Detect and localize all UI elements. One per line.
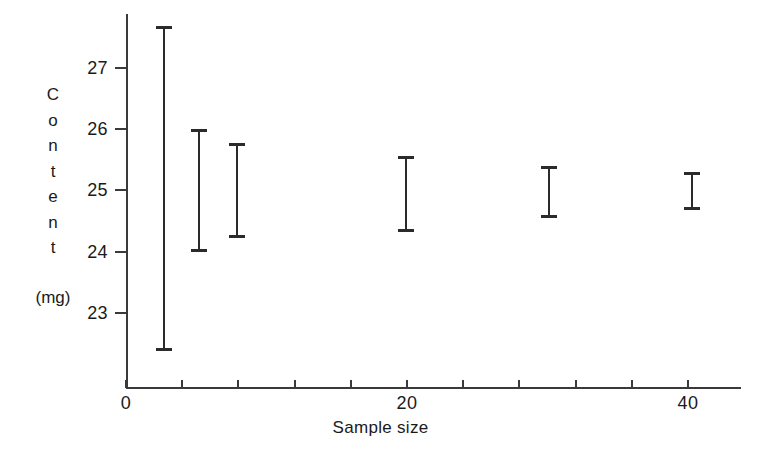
x-axis-tick-mark (575, 380, 577, 388)
y-axis-tick-mark (115, 251, 126, 253)
y-axis-title-letter: C (36, 82, 70, 108)
error-bar-lower-cap (156, 348, 172, 351)
error-bar-stem (691, 172, 693, 210)
x-axis-tick-mark (181, 380, 183, 388)
y-axis-tick-label-wrap: 24 (62, 243, 108, 261)
error-bar-upper-cap (541, 166, 557, 169)
y-axis-tick-label: 26 (64, 120, 108, 138)
y-axis-tick-label-wrap: 25 (62, 181, 108, 199)
y-axis-tick-label: 25 (64, 181, 108, 199)
error-bar-lower-cap (229, 235, 245, 238)
error-bar (398, 156, 414, 232)
y-axis-tick-label-wrap: 23 (62, 304, 108, 322)
x-axis-tick-mark (462, 380, 464, 388)
error-bar-chart: C o n t e n t (mg) 2324252627 02040 Samp… (0, 0, 761, 457)
y-axis-tick-mark (115, 312, 126, 314)
error-bar (191, 129, 207, 251)
x-axis-tick-mark (237, 380, 239, 388)
error-bar-upper-cap (229, 143, 245, 146)
x-axis-line (126, 387, 741, 389)
x-axis-title: Sample size (0, 418, 761, 438)
error-bar-upper-cap (398, 156, 414, 159)
y-axis-tick-mark (115, 189, 126, 191)
error-bar-upper-cap (156, 26, 172, 29)
x-axis-tick-mark (125, 380, 127, 388)
error-bar-stem (405, 156, 407, 232)
error-bar-lower-cap (398, 229, 414, 232)
x-axis-tick-mark (294, 380, 296, 388)
error-bar-stem (548, 166, 550, 218)
x-axis-tick-label: 0 (96, 392, 156, 414)
y-axis-title: C o n t e n t (36, 82, 70, 261)
error-bar-stem (163, 26, 165, 351)
x-axis-tick-label: 40 (658, 392, 718, 414)
error-bar (684, 172, 700, 210)
x-axis-tick-mark (631, 380, 633, 388)
error-bar-stem (198, 129, 200, 251)
y-axis-tick-mark (115, 67, 126, 69)
y-axis-tick-label: 24 (64, 243, 108, 261)
error-bar-upper-cap (191, 129, 207, 132)
x-axis-tick-mark (518, 380, 520, 388)
y-axis-tick-label-wrap: 27 (62, 59, 108, 77)
error-bar (229, 143, 245, 237)
error-bar-stem (236, 143, 238, 237)
error-bar (156, 26, 172, 351)
y-axis-tick-label: 23 (64, 304, 108, 322)
y-axis-line (126, 14, 128, 388)
y-axis-tick-mark (115, 128, 126, 130)
error-bar-upper-cap (684, 172, 700, 175)
x-axis-tick-mark (350, 380, 352, 388)
x-axis-tick-mark (687, 380, 689, 388)
y-axis-tick-label-wrap: 26 (62, 120, 108, 138)
error-bar-lower-cap (541, 215, 557, 218)
y-axis-title-letter: n (36, 210, 70, 236)
y-axis-title-letter: t (36, 159, 70, 185)
x-axis-tick-label: 20 (377, 392, 437, 414)
error-bar-lower-cap (191, 249, 207, 252)
error-bar (541, 166, 557, 218)
y-axis-tick-label: 27 (64, 59, 108, 77)
error-bar-lower-cap (684, 207, 700, 210)
x-axis-tick-mark (406, 380, 408, 388)
